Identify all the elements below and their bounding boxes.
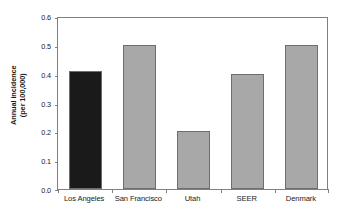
x-axis-tick-labels: Los AngelesSan FranciscoUtahSEERDenmark	[57, 194, 328, 210]
y-axis-title-line-2: (per 100,000)	[18, 65, 27, 125]
bar-los-angeles	[69, 71, 102, 189]
y-axis-tick-mark	[55, 105, 58, 106]
y-axis-tick-mark	[55, 47, 58, 48]
x-axis-tick-mark	[221, 189, 222, 193]
x-axis-tick-label: Utah	[185, 194, 201, 203]
bar-utah	[177, 131, 210, 189]
y-axis-tick-mark	[55, 18, 58, 19]
y-axis-tick-label: 0.2	[41, 128, 51, 137]
bar-san-francisco	[123, 45, 156, 189]
x-axis-tick-mark	[328, 189, 329, 193]
bar-denmark	[285, 45, 318, 189]
bar-seer	[231, 74, 264, 189]
x-axis-tick-mark	[112, 189, 113, 193]
y-axis-tick-label: 0.0	[41, 186, 51, 195]
x-axis-tick-label: San Francisco	[115, 194, 162, 203]
y-axis-tick-label: 0.1	[41, 157, 51, 166]
y-axis-tick-label: 0.3	[41, 99, 51, 108]
y-axis-tick-mark	[55, 133, 58, 134]
x-axis-tick-label: SEER	[237, 194, 257, 203]
y-axis-tick-mark	[55, 76, 58, 77]
y-axis-tick-label: 0.4	[41, 70, 51, 79]
x-axis-tick-mark	[275, 189, 276, 193]
x-axis-tick-label: Denmark	[286, 194, 316, 203]
y-axis-tick-label: 0.6	[41, 13, 51, 22]
y-axis-title-line-1: Annual incidence	[9, 65, 18, 125]
x-axis-tick-label: Los Angeles	[64, 194, 104, 203]
y-axis-tick-label: 0.5	[41, 41, 51, 50]
x-axis-tick-mark	[58, 189, 59, 193]
y-axis-tick-mark	[55, 162, 58, 163]
bar-chart-figure: Annual incidence (per 100,000) 0.00.10.2…	[0, 0, 346, 220]
y-axis-tick-labels: 0.00.10.20.30.40.50.6	[30, 17, 55, 190]
x-axis-tick-mark	[166, 189, 167, 193]
plot-area	[57, 17, 328, 190]
